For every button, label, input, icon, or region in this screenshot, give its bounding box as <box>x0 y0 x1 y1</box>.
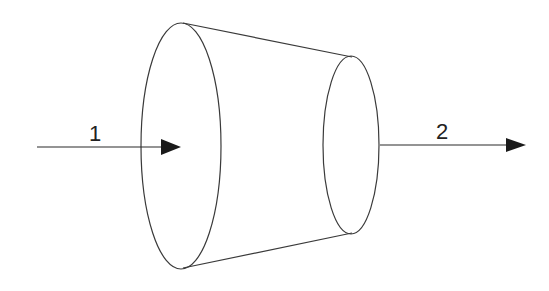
frustum-flow-diagram: 1 2 <box>0 0 549 291</box>
inlet-cross-section-ellipse <box>141 23 221 269</box>
inlet-label: 1 <box>89 121 101 146</box>
outlet-label: 2 <box>436 119 448 144</box>
frustum-bottom-edge <box>183 233 352 268</box>
outlet-cross-section-ellipse <box>323 56 379 234</box>
inlet-arrow <box>37 139 181 155</box>
outlet-arrowhead-icon <box>506 138 526 152</box>
outlet-arrow <box>380 138 526 152</box>
frustum-top-edge <box>183 23 352 57</box>
inlet-arrowhead-icon <box>161 139 181 155</box>
